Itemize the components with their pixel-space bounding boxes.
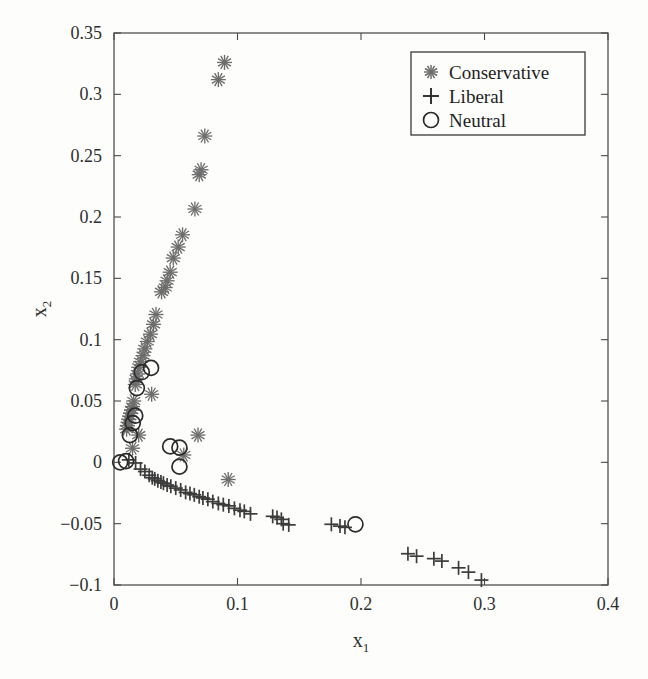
series-neutral	[113, 360, 363, 531]
y-tick-label: 0.35	[71, 23, 103, 43]
marker-asterisk	[144, 387, 159, 402]
marker-plus	[324, 517, 338, 531]
y-axis-title: x2	[28, 301, 54, 318]
legend-label: Liberal	[449, 86, 504, 107]
y-tick-label: 0.3	[80, 84, 103, 104]
y-tick-label: 0	[93, 452, 102, 472]
marker-asterisk	[190, 428, 205, 443]
y-tick-label: −0.05	[60, 514, 102, 534]
marker-plus	[401, 547, 415, 561]
marker-asterisk	[221, 472, 236, 487]
x-axis-title: x1	[353, 629, 370, 655]
marker-plus	[427, 552, 441, 566]
x-tick-label: 0.4	[597, 594, 620, 614]
marker-plus	[410, 549, 424, 563]
y-tick-label: 0.15	[71, 268, 103, 288]
series-conservative	[119, 55, 236, 487]
x-tick-label: 0	[110, 594, 119, 614]
marker-circle	[172, 459, 187, 474]
plot-canvas: 00.10.20.30.4 −0.1−0.0500.050.10.150.20.…	[0, 0, 648, 679]
y-tick-label: 0.2	[80, 207, 103, 227]
marker-asterisk	[217, 55, 232, 70]
marker-plus	[435, 554, 449, 568]
x-tick-label: 0.2	[350, 594, 373, 614]
marker-asterisk	[187, 202, 202, 217]
axis-labels-layer: x1x2	[28, 301, 369, 655]
marker-asterisk	[197, 129, 212, 144]
y-tick-label: 0.25	[71, 146, 103, 166]
y-tick-label: −0.1	[69, 575, 102, 595]
y-tick-label: 0.05	[71, 391, 103, 411]
legend-label: Conservative	[449, 62, 549, 83]
marker-circle	[348, 517, 363, 532]
legend[interactable]: ConservativeLiberalNeutral	[411, 52, 585, 135]
x-tick-label: 0.1	[226, 594, 249, 614]
marker-asterisk	[175, 227, 190, 242]
marker-asterisk	[211, 72, 226, 87]
x-tick-label: 0.3	[473, 594, 496, 614]
marker-plus	[243, 507, 257, 521]
scatter-plot-figure: 00.10.20.30.4 −0.1−0.0500.050.10.150.20.…	[0, 0, 648, 679]
y-tick-label: 0.1	[80, 330, 103, 350]
legend-label: Neutral	[449, 110, 506, 131]
